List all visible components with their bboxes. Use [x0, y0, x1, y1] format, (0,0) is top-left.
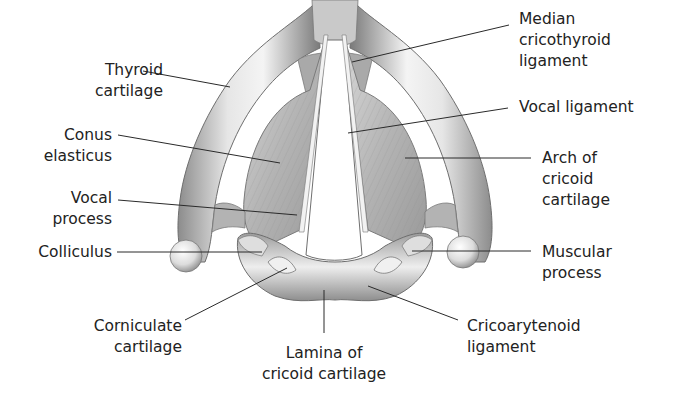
label-line: cricothyroid [519, 30, 611, 51]
label-line: Colliculus [38, 242, 112, 263]
label-colliculus: Colliculus [38, 242, 112, 263]
label-line: cartilage [94, 337, 182, 358]
label-line: Vocal [52, 188, 112, 209]
label-line: process [542, 263, 612, 284]
label-line: Arch of [542, 148, 610, 169]
label-line: cricoid [542, 169, 610, 190]
left-inferior-horn [170, 240, 202, 272]
label-line: elasticus [44, 146, 112, 167]
label-vocal-process: Vocal process [52, 188, 112, 230]
label-line: ligament [467, 337, 581, 358]
label-line: Vocal ligament [519, 97, 634, 118]
label-line: Lamina of [254, 343, 394, 364]
label-arch-cricoid: Arch of cricoid cartilage [542, 148, 610, 211]
label-cricoarytenoid-ligament: Cricoarytenoid ligament [467, 316, 581, 358]
label-muscular-process: Muscular process [542, 242, 612, 284]
label-lamina-cricoid: Lamina of cricoid cartilage [254, 343, 394, 385]
label-line: Conus [44, 125, 112, 146]
label-line: cartilage [95, 81, 163, 102]
label-thyroid-cartilage: Thyroid cartilage [95, 60, 163, 102]
label-vocal-ligament: Vocal ligament [519, 97, 634, 118]
label-line: Muscular [542, 242, 612, 263]
right-inferior-horn [447, 236, 479, 268]
label-line: process [52, 209, 112, 230]
label-median-cricothyroid-ligament: Median cricothyroid ligament [519, 9, 611, 72]
label-line: cricoid cartilage [254, 364, 394, 385]
label-line: ligament [519, 51, 611, 72]
label-line: Corniculate [94, 316, 182, 337]
label-line: Median [519, 9, 611, 30]
label-corniculate-cartilage: Corniculate cartilage [94, 316, 182, 358]
label-line: cartilage [542, 190, 610, 211]
label-line: Thyroid [95, 60, 163, 81]
label-line: Cricoarytenoid [467, 316, 581, 337]
label-conus-elasticus: Conus elasticus [44, 125, 112, 167]
leader-cricoarytenoid [368, 286, 458, 320]
